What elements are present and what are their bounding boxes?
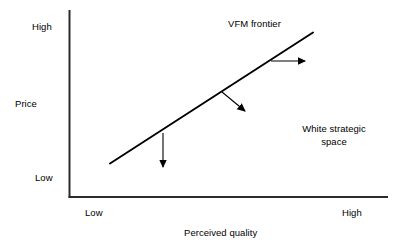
diagram-canvas: High Price Low Low High Perceived qualit… bbox=[0, 0, 396, 247]
x-axis-low-tick-label: Low bbox=[85, 207, 103, 219]
white-strategic-space-label: White strategic space bbox=[292, 122, 376, 148]
y-axis-high-tick-label: High bbox=[32, 21, 52, 33]
y-axis-low-tick-label: Low bbox=[35, 172, 53, 184]
down-right-arrow bbox=[222, 92, 245, 111]
axis-lines bbox=[69, 10, 389, 198]
vfm-frontier-line bbox=[110, 33, 313, 164]
x-axis-high-tick-label: High bbox=[342, 207, 362, 219]
vfm-frontier-label: VFM frontier bbox=[228, 18, 281, 30]
x-axis-title: Perceived quality bbox=[184, 227, 257, 239]
y-axis-title: Price bbox=[15, 98, 37, 110]
